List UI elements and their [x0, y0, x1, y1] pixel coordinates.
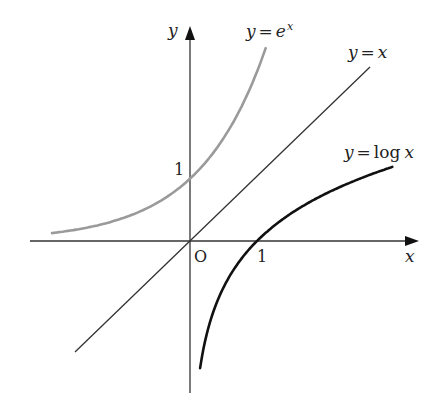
identity-line [75, 67, 370, 352]
exp-curve-label: y=ex [245, 20, 294, 41]
x-tick-label-1: 1 [257, 247, 267, 266]
x-axis-label: x [405, 246, 415, 266]
origin-label: O [194, 247, 207, 266]
y-tick-label-1: 1 [174, 160, 184, 179]
x-axis-arrow-icon [405, 236, 419, 246]
function-graph-diagram: y x O 1 1 y=ex y=x y=logx [0, 0, 445, 415]
log-curve-label: y=logx [343, 142, 414, 162]
exp-curve [52, 48, 266, 233]
y-axis-arrow-icon [185, 26, 195, 40]
identity-line-label: y=x [347, 42, 388, 62]
y-axis-label: y [167, 20, 178, 40]
log-curve [200, 167, 392, 368]
